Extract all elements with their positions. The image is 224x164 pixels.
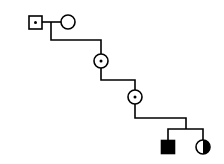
female-unaffected-symbol (61, 15, 75, 29)
descent-line (101, 68, 135, 90)
female-carrier-symbol (94, 54, 108, 68)
male-carrier-symbol (29, 16, 42, 29)
descent-line (51, 22, 101, 54)
pedigree-chart (0, 0, 224, 164)
descent-line (135, 104, 186, 129)
male-affected-symbol (162, 141, 175, 154)
female-half-affected-symbol (196, 140, 210, 154)
female-carrier-symbol (128, 90, 142, 104)
sibship-line (168, 129, 203, 140)
